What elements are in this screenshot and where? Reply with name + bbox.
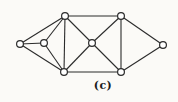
- graph-edge-mid-left--top-left: [44, 16, 65, 43]
- graph-edge-top-right--far-right: [121, 16, 163, 45]
- graph-edge-mid-left--bottom-left: [44, 43, 64, 72]
- graph-node-far-left: [17, 41, 24, 48]
- graph-edge-bottom-left--center: [64, 43, 92, 72]
- graph-node-center: [89, 40, 96, 47]
- graph-edge-center--top-right: [92, 16, 121, 43]
- graph-edge-top-left--center: [65, 16, 92, 43]
- graph-node-top-left: [62, 13, 69, 20]
- figure-caption: (c): [0, 79, 178, 92]
- graph-node-bottom-left: [61, 69, 68, 76]
- figure-panel: (c): [0, 0, 178, 102]
- graph-edge-center--bottom-right: [92, 43, 121, 72]
- graph-edge-top-left--bottom-left: [64, 16, 65, 72]
- graph-node-mid-left: [41, 40, 48, 47]
- graph-nodes: [17, 13, 167, 76]
- graph-node-top-right: [118, 13, 125, 20]
- graph-edge-far-left--bottom-left: [20, 44, 64, 72]
- graph-node-bottom-right: [118, 69, 125, 76]
- graph-edge-bottom-right--far-right: [121, 45, 163, 72]
- graph-node-far-right: [160, 42, 167, 49]
